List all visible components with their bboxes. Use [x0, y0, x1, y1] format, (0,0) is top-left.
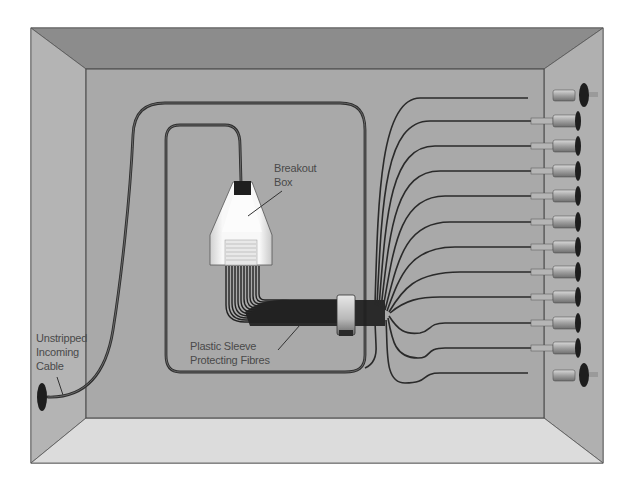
fibre-enclosure-diagram: Breakout Box Plastic Sleeve Protecting F… [0, 0, 628, 486]
sleeve-clamp [337, 295, 355, 335]
plastic-sleeve [245, 300, 385, 326]
breakout-box-cap [234, 181, 251, 195]
cable-label-line2: Incoming [36, 346, 79, 358]
breakout-box-label-line1: Breakout [274, 162, 317, 174]
top-wall [31, 28, 603, 69]
cable-label-line3: Cable [36, 360, 64, 372]
cable-grommet [37, 383, 47, 411]
breakout-box-label-line2: Box [274, 176, 293, 188]
sleeve-clamp-base [339, 330, 353, 336]
enclosure [31, 28, 603, 463]
sleeve-label-line2: Protecting Fibres [190, 354, 270, 366]
cable-label-line1: Unstripped [36, 332, 87, 344]
sleeve-label-line1: Plastic Sleeve [190, 340, 256, 352]
floor [31, 418, 603, 463]
